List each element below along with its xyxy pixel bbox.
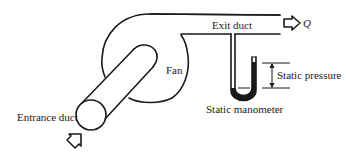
entrance-duct-far-end [134,45,157,67]
fan-label: Fan [166,64,183,76]
entrance-duct-lower-edge [105,67,153,119]
entrance-duct [76,45,157,130]
fan-system-diagram: Exit duct Q Fan Static pressure Static m… [0,0,346,156]
manometer-left-tube-inner [235,34,252,96]
exit-duct-top-wall [150,14,280,15]
static-pressure-arrow-up-icon [270,63,275,68]
static-pressure-label: Static pressure [277,69,342,81]
entrance-duct-label: Entrance duct [17,111,78,123]
flow-q-label: Q [303,17,311,29]
static-manometer [231,34,256,101]
entrance-duct-opening [76,100,106,130]
static-pressure-arrow-down-icon [270,83,275,88]
outflow-arrow-icon [284,16,300,30]
static-manometer-label: Static manometer [206,103,284,115]
exit-duct-label: Exit duct [212,19,252,31]
inflow-arrow-icon [67,134,81,148]
